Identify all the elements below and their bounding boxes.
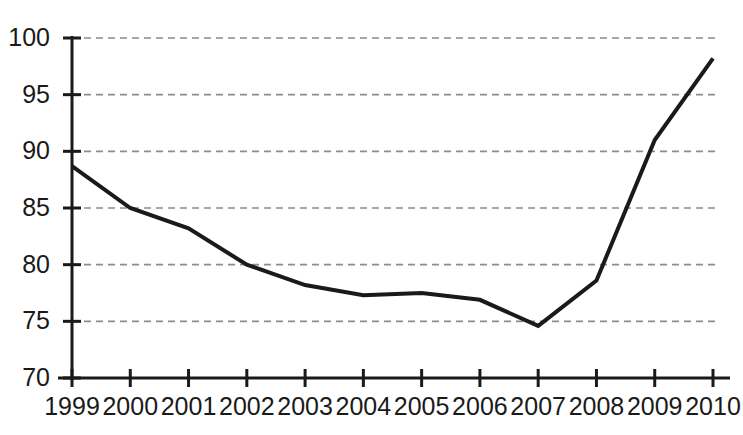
plot-area — [0, 0, 743, 435]
line-chart: 707580859095100 199920002001200220032004… — [0, 0, 743, 435]
y-tick-label: 100 — [0, 25, 50, 50]
data-series-line — [72, 58, 713, 325]
y-tick-label: 95 — [0, 82, 50, 107]
gridlines-group — [72, 38, 715, 321]
x-tick-label: 2010 — [678, 394, 743, 419]
y-tick-label: 90 — [0, 138, 50, 163]
y-tick-label: 75 — [0, 308, 50, 333]
y-tick-label: 85 — [0, 195, 50, 220]
y-tick-label: 80 — [0, 252, 50, 277]
y-tick-label: 70 — [0, 365, 50, 390]
